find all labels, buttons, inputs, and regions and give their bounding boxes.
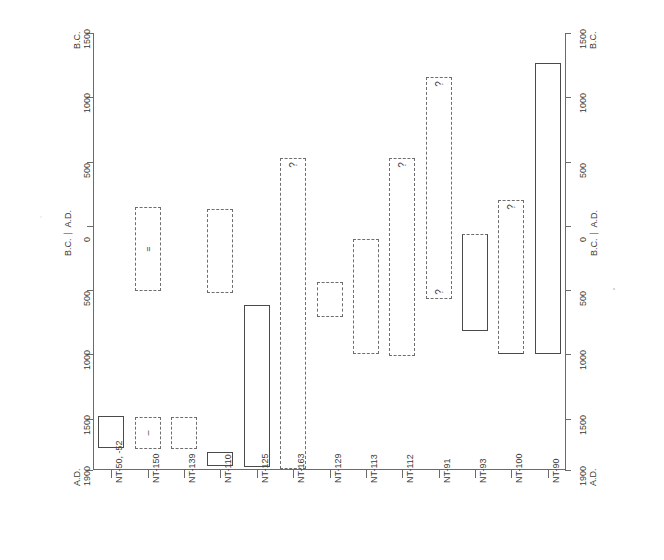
x-category-label: NT-150 [152,453,161,483]
plot-area: 1500B.C.10005000500100015001900A.D. 1500… [93,33,566,470]
x-tick [257,469,258,478]
y-tick-right [565,290,571,291]
y-tick-label-right: 1900 [579,466,588,486]
y-axis-left-title: B.C.—A.D. [63,210,73,256]
uncertainty-question-mark: ? [289,162,299,168]
y-era-label-right: A.D. [589,468,598,486]
y-tick-label-left: 1900 [83,466,92,486]
x-tick [402,469,403,478]
x-tick [293,469,294,478]
range-bar [462,234,488,332]
artifact-speck [40,216,42,218]
x-category-label: NT-112 [406,454,415,483]
y-tick-label-right: 1500 [579,415,588,435]
y-axis-right-title: B.C.—A.D. [589,210,599,256]
x-tick [220,469,221,478]
y-tick-label-left: 1000 [83,350,92,370]
x-tick [330,469,331,478]
x-tick [148,469,149,478]
range-bar [244,305,270,467]
x-category-label: NT-93 [479,458,488,483]
y-tick-right [565,162,571,163]
range-bar [98,416,124,448]
y-tick-label-right: 500 [579,162,588,177]
range-bar [353,239,379,355]
y-tick-left [87,226,93,227]
y-tick-right [565,419,571,420]
y-tick-label-right: 1000 [579,93,588,113]
x-tick [475,469,476,478]
uncertainty-question-mark: ? [434,289,444,295]
y-tick-right [565,470,571,471]
uncertainty-question-mark: ? [507,204,517,210]
range-bar [389,158,415,356]
y-tick-label-left: 1000 [83,93,92,113]
range-bar: = [135,207,161,292]
y-tick-label-right: 500 [579,291,588,306]
y-tick-right [565,354,571,355]
y-era-label-left: A.D. [73,468,82,486]
y-axis-left-line [93,33,94,470]
artifact-speck [613,288,615,290]
y-era-label-right: B.C. [589,31,598,49]
x-category-label: NT-113 [370,454,379,483]
x-category-label: NT-100 [515,453,524,483]
y-era-label-left: B.C. [73,31,82,49]
y-tick-label-right: 1000 [579,350,588,370]
range-bar [535,63,561,355]
y-tick-label-left: 1500 [83,415,92,435]
range-bar [207,209,233,293]
range-bar: – [135,417,161,449]
x-tick [439,469,440,478]
x-category-label: NT-139 [188,453,197,483]
bar-marker: = [143,246,152,251]
y-tick-label-left: 1500 [83,29,92,49]
y-axis-right-line [565,33,566,470]
x-category-label: NT-129 [334,453,343,483]
y-tick-label-left: 0 [83,237,92,242]
range-bar [280,158,306,469]
uncertainty-question-mark: ? [434,81,444,87]
bar-marker: – [143,431,152,436]
y-tick-label-right: 0 [579,237,588,242]
y-tick-label-right: 1500 [579,29,588,49]
x-category-label: NT-91 [443,458,452,483]
y-tick-right [565,97,571,98]
uncertainty-question-mark: ? [398,162,408,168]
x-tick [184,469,185,478]
range-bar [207,452,233,466]
y-tick-right [565,226,571,227]
x-tick [548,469,549,478]
y-tick-right [565,33,571,34]
x-tick [111,469,112,478]
range-bar [426,77,452,299]
x-tick [511,469,512,478]
x-category-label: NT-90 [552,458,561,483]
range-bar [317,282,343,317]
range-bar [171,417,197,449]
chronology-chart-figure: 1500B.C.10005000500100015001900A.D. 1500… [0,0,664,560]
range-bar [498,200,524,354]
x-tick [366,469,367,478]
y-tick-label-left: 500 [83,291,92,306]
y-tick-label-left: 500 [83,162,92,177]
